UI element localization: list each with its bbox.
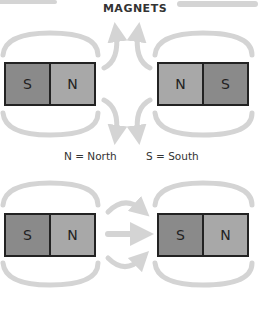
north-pole: N <box>202 215 247 255</box>
field-lines <box>0 0 270 319</box>
south-pole: S <box>6 64 49 104</box>
legend-south: S = South <box>146 150 199 162</box>
north-pole: N <box>49 64 94 104</box>
south-pole: S <box>6 215 49 255</box>
south-pole: S <box>202 64 247 104</box>
legend-north: N = North <box>64 150 117 162</box>
south-pole: S <box>159 215 202 255</box>
north-pole: N <box>159 64 202 104</box>
magnet-bottom-left: S N <box>4 213 96 257</box>
magnet-bottom-right: S N <box>157 213 249 257</box>
magnet-top-left: S N <box>4 62 96 106</box>
diagram-title: MAGNETS <box>0 2 270 15</box>
magnet-top-right: N S <box>157 62 249 106</box>
north-pole: N <box>49 215 94 255</box>
